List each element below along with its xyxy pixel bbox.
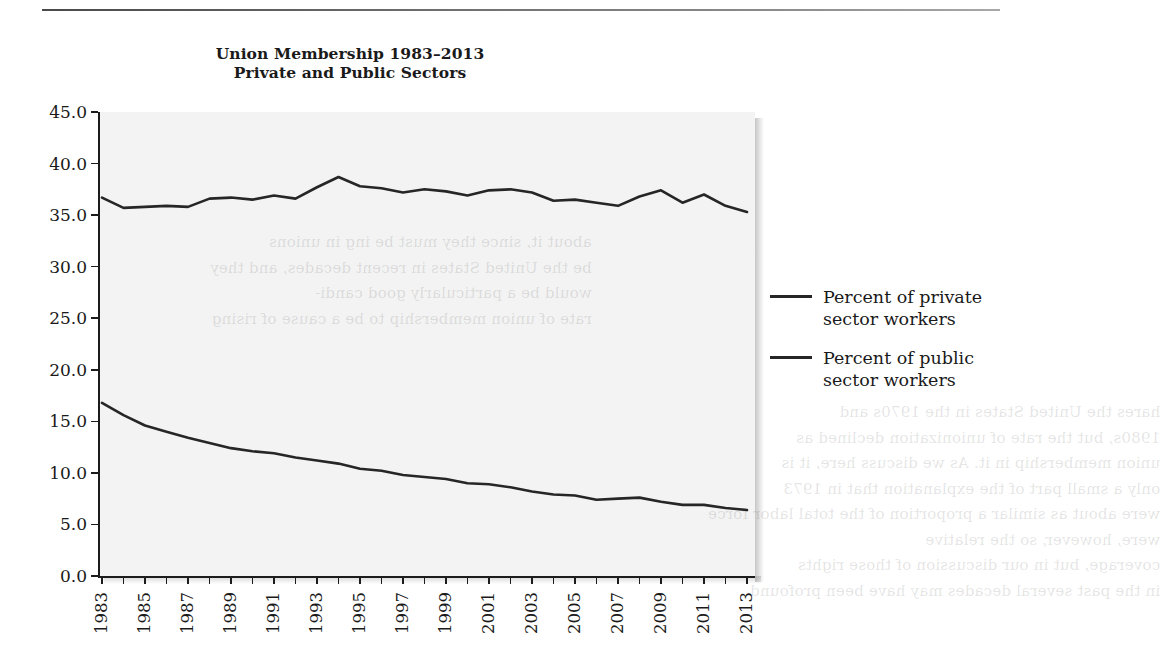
y-axis-label: 25.0	[49, 310, 87, 327]
y-axis-label: 30.0	[49, 258, 87, 275]
legend-line-swatch	[770, 356, 812, 359]
x-axis-label: 1993	[309, 592, 326, 634]
x-axis-tick	[252, 576, 253, 584]
x-axis-tick	[467, 576, 468, 584]
x-axis-tick	[166, 576, 167, 584]
y-axis-tick	[91, 472, 98, 474]
x-axis-tick	[123, 576, 124, 584]
x-axis-label: 2005	[567, 592, 584, 634]
x-axis-tick	[596, 576, 597, 584]
x-axis-tick	[144, 576, 145, 584]
bleed-through-text-right: hares the United States in the 1970s and…	[708, 400, 1160, 604]
x-axis-tick	[617, 576, 618, 584]
x-axis-tick	[510, 576, 511, 584]
y-axis-label: 15.0	[49, 413, 87, 430]
x-axis-tick	[553, 576, 554, 584]
chart-title-line-2: Private and Public Sectors	[0, 63, 700, 82]
y-axis-label: 0.0	[60, 568, 87, 585]
y-axis-label: 40.0	[49, 155, 87, 172]
y-axis-label: 35.0	[49, 207, 87, 224]
y-axis-tick	[91, 524, 98, 526]
y-axis-label: 10.0	[49, 464, 87, 481]
y-axis-label: 45.0	[49, 104, 87, 121]
x-axis-tick	[488, 576, 489, 584]
x-axis-label: 2007	[610, 592, 627, 634]
x-axis-tick	[682, 576, 683, 584]
x-axis-tick	[316, 576, 317, 584]
x-axis-tick	[359, 576, 360, 584]
y-axis-tick	[91, 111, 98, 113]
series-line	[102, 177, 747, 212]
x-axis-label: 2001	[481, 592, 498, 634]
x-axis-label: 1983	[94, 592, 111, 634]
plot-area: about it, since they must be ing in unio…	[98, 112, 755, 576]
y-axis-label: 5.0	[60, 516, 87, 533]
x-axis-tick	[574, 576, 575, 584]
y-axis-tick	[91, 214, 98, 216]
y-axis-label: 20.0	[49, 361, 87, 378]
x-axis-tick	[531, 576, 532, 584]
x-axis-tick	[338, 576, 339, 584]
legend-label: Percent of public sector workers	[823, 347, 1013, 391]
x-axis-tick	[187, 576, 188, 584]
legend-label: Percent of private sector workers	[823, 286, 1013, 330]
y-axis-tick	[91, 317, 98, 319]
x-axis-tick	[273, 576, 274, 584]
x-axis-tick	[101, 576, 102, 584]
x-axis-label: 1989	[223, 592, 240, 634]
x-axis-label: 1999	[438, 592, 455, 634]
x-axis-label: 2003	[524, 592, 541, 634]
legend-line-swatch	[770, 295, 812, 298]
x-axis-tick	[230, 576, 231, 584]
y-axis-tick	[91, 163, 98, 165]
x-axis-tick	[445, 576, 446, 584]
x-axis-label: 1987	[180, 592, 197, 634]
x-axis-tick	[209, 576, 210, 584]
x-axis-tick	[381, 576, 382, 584]
x-axis-line	[98, 576, 755, 578]
legend-item: Percent of public sector workers	[770, 347, 1020, 391]
x-axis-tick	[295, 576, 296, 584]
chart-legend: Percent of private sector workersPercent…	[770, 286, 1020, 408]
x-axis-tick	[402, 576, 403, 584]
y-axis-tick	[91, 266, 98, 268]
y-axis-tick	[91, 575, 98, 577]
x-axis-label: 2011	[696, 592, 713, 634]
y-axis-tick	[91, 369, 98, 371]
page-top-rule	[42, 9, 1000, 11]
x-axis-label: 2009	[653, 592, 670, 634]
y-axis-tick	[91, 421, 98, 423]
x-axis-tick	[660, 576, 661, 584]
x-axis-label: 1985	[137, 592, 154, 634]
x-axis-tick	[703, 576, 704, 584]
series-line	[102, 403, 747, 510]
x-axis-tick	[424, 576, 425, 584]
x-axis-tick	[725, 576, 726, 584]
legend-item: Percent of private sector workers	[770, 286, 1020, 330]
chart-title-line-1: Union Membership 1983–2013	[0, 44, 700, 63]
plot-shadow-right	[755, 118, 764, 582]
x-axis-tick	[639, 576, 640, 584]
x-axis-label: 1991	[266, 592, 283, 634]
x-axis-label: 1997	[395, 592, 412, 634]
x-axis-label: 1995	[352, 592, 369, 634]
series-lines	[98, 112, 755, 576]
x-axis-label: 2013	[739, 592, 756, 634]
chart-title: Union Membership 1983–2013 Private and P…	[0, 44, 700, 82]
x-axis-tick	[746, 576, 747, 584]
